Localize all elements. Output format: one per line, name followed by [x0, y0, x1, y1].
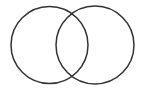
venn-circle-left: [11, 7, 88, 84]
venn-circle-right: [56, 6, 134, 84]
venn-diagram: [0, 0, 141, 97]
